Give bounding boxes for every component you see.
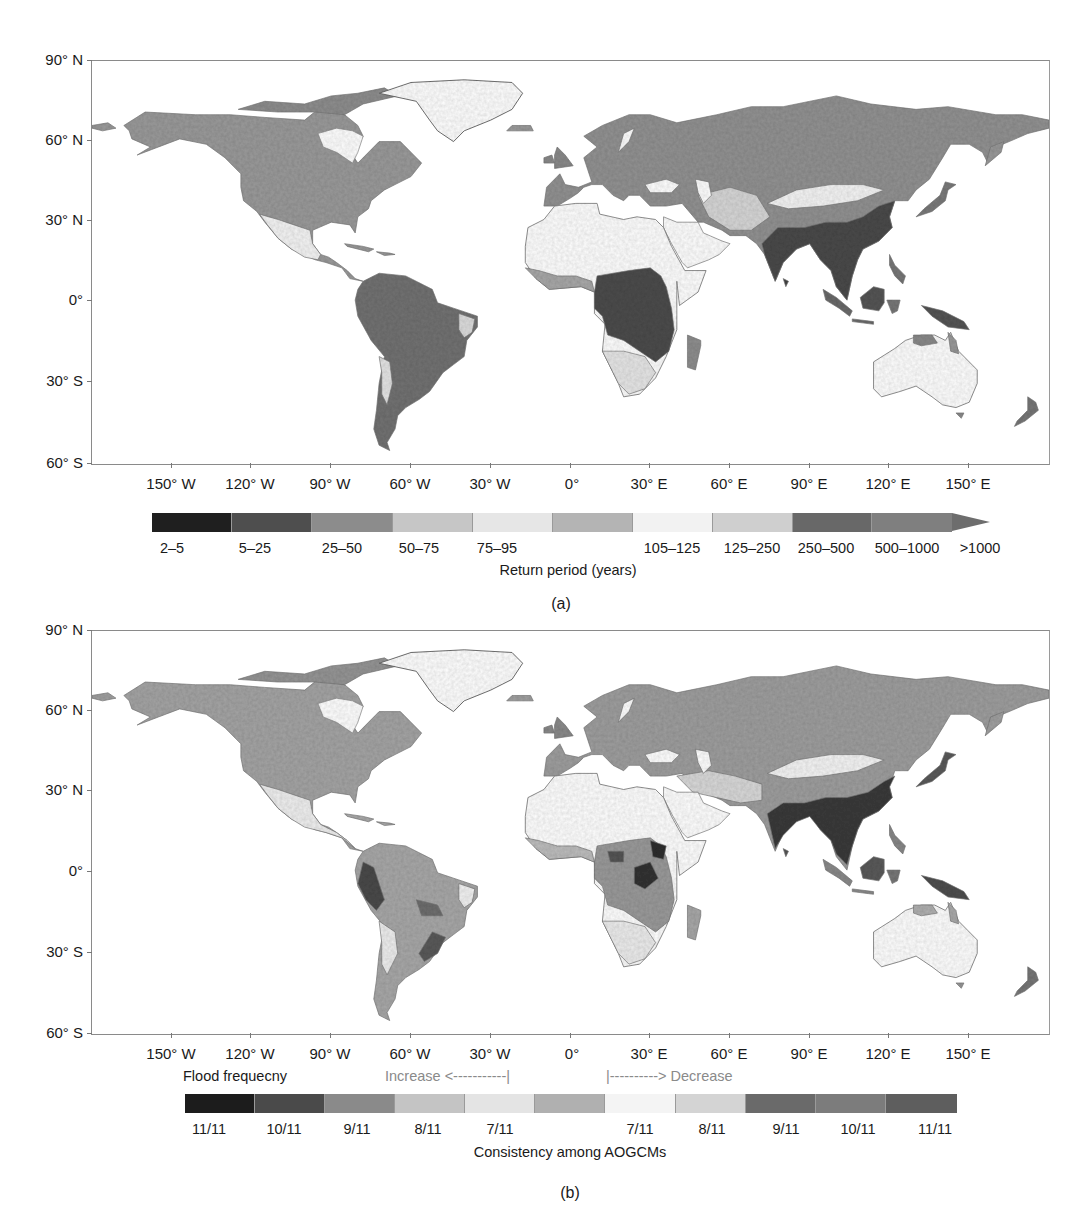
y-tick-label: 0° xyxy=(3,863,83,879)
colorbar-swatch xyxy=(255,1094,325,1113)
x-tick xyxy=(410,1033,411,1038)
colorbar-swatch xyxy=(395,1094,465,1113)
colorbar-swatch xyxy=(465,1094,535,1113)
colorbar-swatch xyxy=(886,1094,957,1113)
y-tick xyxy=(87,1033,92,1034)
legend-decrease-label: |----------> Decrease xyxy=(606,1068,733,1084)
x-tick-label: 120° W xyxy=(210,1046,290,1062)
y-tick xyxy=(87,710,92,711)
x-tick xyxy=(250,1033,251,1038)
x-tick-label: 120° E xyxy=(848,1046,928,1062)
x-tick xyxy=(809,1033,810,1038)
colorbar-swatch xyxy=(535,1094,605,1113)
legend-increase-label: Increase <-----------| xyxy=(385,1068,510,1084)
x-tick xyxy=(330,1033,331,1038)
colorbar-consistency xyxy=(185,1094,957,1113)
colorbar-label: 7/11 xyxy=(626,1121,653,1137)
x-tick xyxy=(570,1033,571,1038)
world-map-model-consistency xyxy=(92,631,1049,1034)
colorbar-label: 11/11 xyxy=(192,1121,226,1137)
colorbar-label: 10/11 xyxy=(266,1121,301,1137)
colorbar-swatch xyxy=(676,1094,746,1113)
map-panel-b xyxy=(91,630,1050,1035)
y-tick-label: 60° N xyxy=(3,702,83,718)
x-tick-label: 60° E xyxy=(689,1046,769,1062)
x-tick-label: 150° W xyxy=(131,1046,211,1062)
y-tick xyxy=(87,790,92,791)
x-tick-label: 90° E xyxy=(769,1046,849,1062)
colorbar-swatch xyxy=(605,1094,676,1113)
y-tick-label: 60° S xyxy=(3,1025,83,1041)
colorbar-label: 9/11 xyxy=(772,1121,799,1137)
colorbar-label: 7/11 xyxy=(486,1121,513,1137)
x-tick-label: 30° W xyxy=(450,1046,530,1062)
colorbar-title: Consistency among AOGCMs xyxy=(474,1144,667,1160)
x-tick xyxy=(968,1033,969,1038)
colorbar-swatch xyxy=(746,1094,816,1113)
panel-label-b: (b) xyxy=(560,1184,580,1202)
x-tick-label: 0° xyxy=(532,1046,612,1062)
y-tick xyxy=(87,630,92,631)
x-tick xyxy=(888,1033,889,1038)
x-tick-label: 90° W xyxy=(290,1046,370,1062)
colorbar-label: 9/11 xyxy=(343,1121,370,1137)
y-tick-label: 90° N xyxy=(3,622,83,638)
north-america xyxy=(124,679,422,851)
colorbar-swatch xyxy=(325,1094,395,1113)
x-tick xyxy=(490,1033,491,1038)
colorbar-label: 8/11 xyxy=(414,1121,441,1137)
legend-header-flood-frequency: Flood frequecny xyxy=(183,1068,287,1084)
x-tick-label: 150° E xyxy=(928,1046,1008,1062)
colorbar-label: 11/11 xyxy=(918,1121,952,1137)
y-tick-label: 30° N xyxy=(3,782,83,798)
colorbar-label: 10/11 xyxy=(840,1121,875,1137)
colorbar-label: 8/11 xyxy=(698,1121,725,1137)
x-tick xyxy=(171,1033,172,1038)
y-tick-label: 30° S xyxy=(3,944,83,960)
x-tick xyxy=(729,1033,730,1038)
x-tick xyxy=(649,1033,650,1038)
colorbar-swatch xyxy=(185,1094,255,1113)
y-tick xyxy=(87,871,92,872)
greenland xyxy=(379,650,523,712)
y-tick xyxy=(87,952,92,953)
colorbar-swatch xyxy=(816,1094,886,1113)
x-tick-label: 60° W xyxy=(370,1046,450,1062)
panel-b: 90° N 60° N 30° N 0° 30° S 60° S 150° W … xyxy=(0,0,1085,1222)
x-tick-label: 30° E xyxy=(609,1046,689,1062)
